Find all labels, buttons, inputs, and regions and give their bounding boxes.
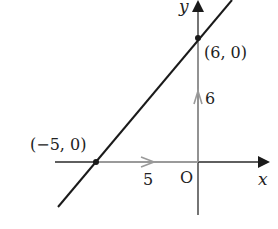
point-neg5-0 [93, 159, 99, 165]
horizontal-displacement-label: 5 [143, 170, 153, 189]
point-6-0-label: (6, 0) [204, 43, 247, 62]
y-axis-label: y [178, 0, 189, 16]
x-axis-label: x [258, 169, 268, 189]
x-axis-arrowhead-icon [258, 156, 270, 168]
origin-label: O [180, 168, 193, 187]
coordinate-diagram: y x O (6, 0) (−5, 0) 5 6 [0, 0, 278, 229]
point-neg5-0-label: (−5, 0) [30, 135, 86, 154]
vertical-displacement-label: 6 [205, 89, 215, 108]
y-axis-arrowhead-icon [192, 0, 204, 12]
point-6-0 [195, 35, 201, 41]
